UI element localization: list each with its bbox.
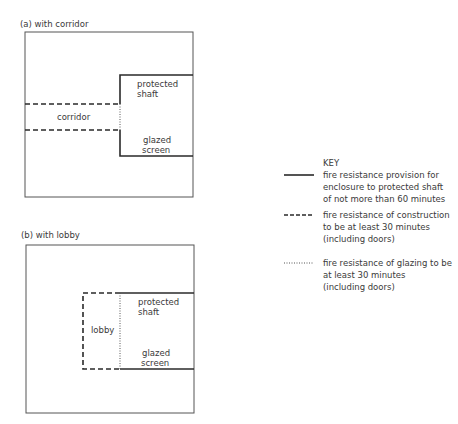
- screen-label-b1: glazed: [142, 348, 170, 358]
- shaft-label-b1: protected: [138, 297, 179, 307]
- shaft-label-a1: protected: [137, 79, 178, 89]
- building-outline-a: [25, 32, 193, 197]
- screen-label-a1: glazed: [143, 135, 171, 145]
- key-solid-text-1: fire resistance provision for: [323, 169, 445, 181]
- key-item-solid: fire resistance provision for enclosure …: [323, 169, 445, 205]
- key-solid-text-3: of not more than 60 minutes: [323, 193, 445, 205]
- screen-label-b2: screen: [141, 358, 169, 368]
- key-dotted-text-3: (including doors): [323, 281, 452, 293]
- key-dashed-text-3: (including doors): [323, 233, 450, 245]
- key-dotted-text-2: at least 30 minutes: [323, 269, 452, 281]
- key-solid-text-2: enclosure to protected shaft: [323, 181, 445, 193]
- shaft-label-b2: shaft: [138, 307, 160, 317]
- lobby-label: lobby: [91, 325, 114, 335]
- key-item-dashed: fire resistance of construction to be at…: [323, 209, 450, 245]
- shaft-label-a2: shaft: [137, 89, 159, 99]
- screen-label-a2: screen: [142, 145, 170, 155]
- diagram-b-title: (b) with lobby: [21, 230, 80, 240]
- key-dashed-text-2: to be at least 30 minutes: [323, 221, 450, 233]
- corridor-label: corridor: [57, 112, 91, 122]
- diagram-a: (a) with corridor protected shaft corrid…: [20, 19, 193, 197]
- key-dashed-text-1: fire resistance of construction: [323, 209, 450, 221]
- diagram-b: (b) with lobby protected shaft lobby gla…: [21, 230, 194, 413]
- key-heading: KEY: [323, 157, 339, 169]
- key-dotted-text-1: fire resistance of glazing to be: [323, 257, 452, 269]
- key-item-dotted: fire resistance of glazing to be at leas…: [323, 257, 452, 293]
- diagram-a-title: (a) with corridor: [20, 19, 89, 29]
